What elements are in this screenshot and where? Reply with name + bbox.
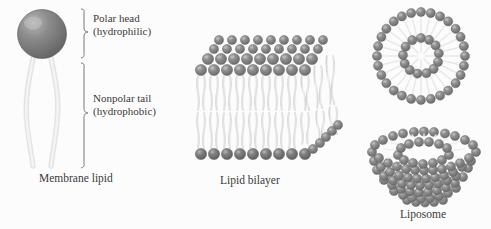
membrane-lipid-caption: Membrane lipid bbox=[39, 172, 113, 184]
nonpolar-tail-label-line1: Nonpolar tail bbox=[93, 92, 156, 105]
tail-brace bbox=[81, 63, 88, 168]
polar-head-label-line2: (hydrophilic) bbox=[93, 25, 151, 38]
liposome-rim-inner bbox=[393, 137, 453, 168]
liposome-caption: Liposome bbox=[400, 208, 446, 220]
membrane-lipid-figure: Polar head (hydrophilic) Nonpolar tail (… bbox=[0, 0, 491, 229]
figure-canvas bbox=[0, 0, 491, 229]
lipid-bilayer-caption: Lipid bilayer bbox=[220, 174, 280, 186]
lipid-tails bbox=[26, 44, 58, 166]
nonpolar-tail-label: Nonpolar tail (hydrophobic) bbox=[93, 92, 156, 119]
bilayer-top-face bbox=[195, 35, 327, 75]
bilayer-side-diagonal bbox=[308, 120, 342, 153]
polar-head-label: Polar head (hydrophilic) bbox=[93, 12, 151, 39]
panel-vesicle bbox=[372, 7, 469, 104]
panel-liposome bbox=[367, 127, 480, 207]
panel-lipid-bilayer bbox=[195, 35, 342, 159]
vesicle-tails bbox=[383, 18, 459, 94]
head-brace bbox=[81, 9, 88, 58]
polar-head-label-line1: Polar head bbox=[93, 12, 151, 25]
bilayer-top-row-2 bbox=[202, 53, 317, 64]
bilayer-top-row-4 bbox=[214, 35, 327, 44]
nonpolar-tail-label-line2: (hydrophobic) bbox=[93, 105, 156, 118]
vesicle-inner-ring bbox=[398, 33, 443, 78]
bilayer-bottom-row bbox=[195, 148, 310, 159]
bilayer-top-row-1 bbox=[195, 64, 310, 75]
lipid-head-sphere bbox=[18, 10, 67, 59]
bilayer-top-row-3 bbox=[209, 44, 322, 53]
panel-membrane-lipid bbox=[18, 9, 89, 168]
